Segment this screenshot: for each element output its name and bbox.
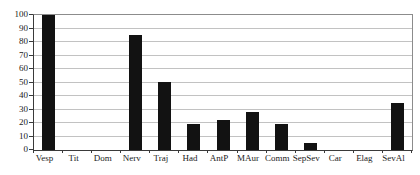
gridline-70 [34, 55, 412, 56]
x-axis-label-MAur: MAur [234, 153, 263, 164]
x-axis-tick-mark [237, 150, 238, 153]
x-axis-label-AntP: AntP [204, 153, 233, 164]
y-axis-tick-label-70: 70 [0, 50, 28, 60]
x-axis-tick-mark [382, 150, 383, 153]
gridline-40 [34, 95, 412, 96]
bar-SepSev [304, 143, 317, 150]
x-axis-tick-mark [295, 150, 296, 153]
gridline-60 [34, 68, 412, 69]
x-axis-label-Dom: Dom [88, 153, 117, 164]
x-axis-label-Had: Had [175, 153, 204, 164]
y-axis-tick-label-90: 90 [0, 23, 28, 33]
y-axis-tick-label-20: 20 [0, 117, 28, 127]
x-axis-label-Nerv: Nerv [117, 153, 146, 164]
y-axis-tick-label-60: 60 [0, 63, 28, 73]
bar-chart: 0102030405060708090100VespTitDomNervTraj… [0, 0, 420, 175]
bar-SevAl [391, 103, 404, 150]
x-axis-label-Elag: Elag [350, 153, 379, 164]
x-axis-tick-mark [149, 150, 150, 153]
x-axis-label-SepSev: SepSev [292, 153, 321, 164]
y-axis-tick-label-40: 40 [0, 90, 28, 100]
x-axis-label-Tit: Tit [59, 153, 88, 164]
bar-Comm [275, 124, 288, 150]
y-axis-tick-mark [29, 41, 33, 42]
x-axis-label-SevAl: SevAl [379, 153, 408, 164]
gridline-50 [34, 82, 412, 83]
y-axis-tick-label-30: 30 [0, 104, 28, 114]
gridline-90 [34, 28, 412, 29]
y-axis-tick-mark [29, 68, 33, 69]
y-axis-tick-mark [29, 122, 33, 123]
y-axis-tick-label-80: 80 [0, 36, 28, 46]
y-axis-tick-label-50: 50 [0, 77, 28, 87]
x-axis-tick-mark [120, 150, 121, 153]
gridline-80 [34, 41, 412, 42]
x-axis-tick-mark [324, 150, 325, 153]
x-axis-tick-mark [178, 150, 179, 153]
bar-Nerv [129, 35, 142, 150]
x-axis-label-Traj: Traj [146, 153, 175, 164]
bar-Traj [158, 82, 171, 150]
bar-AntP [217, 120, 230, 150]
y-axis-tick-label-10: 10 [0, 131, 28, 141]
y-axis-tick-mark [29, 136, 33, 137]
x-axis-tick-mark [91, 150, 92, 153]
y-axis-tick-label-0: 0 [0, 144, 28, 154]
y-axis-tick-mark [29, 109, 33, 110]
plot-area [33, 14, 413, 151]
x-axis-tick-mark [353, 150, 354, 153]
gridline-30 [34, 109, 412, 110]
y-axis-tick-mark [29, 28, 33, 29]
y-axis-tick-mark [29, 82, 33, 83]
bar-Vesp [42, 15, 55, 150]
x-axis-tick-mark [33, 150, 34, 153]
y-axis-tick-mark [29, 95, 33, 96]
y-axis-tick-mark [29, 14, 33, 15]
x-axis-tick-mark [62, 150, 63, 153]
bar-Had [187, 124, 200, 150]
x-axis-label-Vesp: Vesp [30, 153, 59, 164]
x-axis-tick-mark [207, 150, 208, 153]
y-axis-tick-label-100: 100 [0, 9, 28, 19]
y-axis-tick-mark [29, 55, 33, 56]
x-axis-label-Car: Car [321, 153, 350, 164]
bar-MAur [246, 112, 259, 150]
x-axis-label-Comm: Comm [263, 153, 292, 164]
x-axis-tick-mark [266, 150, 267, 153]
x-axis-tick-mark [411, 150, 412, 153]
